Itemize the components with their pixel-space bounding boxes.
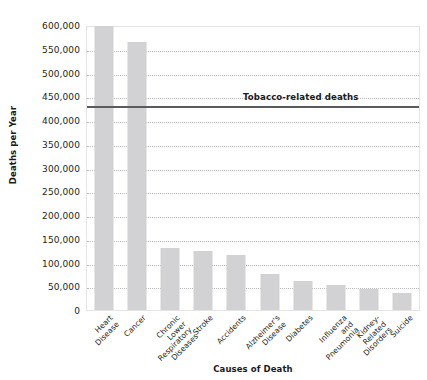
y-tick-label: 400,000 [8, 116, 80, 126]
bar-slot [220, 27, 253, 310]
bar[interactable] [161, 248, 180, 310]
y-tick-label: 50,000 [8, 282, 80, 292]
bar[interactable] [94, 26, 113, 310]
bar[interactable] [127, 42, 146, 310]
y-axis-tick-labels: 600,000550,000500,000450,000400,000350,0… [8, 0, 80, 380]
bar-chart-figure: Deaths per Year 600,000550,000500,000450… [0, 0, 427, 380]
bar-slot [286, 27, 319, 310]
y-tick-label: 200,000 [8, 211, 80, 221]
bar[interactable] [393, 293, 412, 310]
bar-slot [120, 27, 153, 310]
tobacco-threshold-label: Tobacco-related deaths [243, 92, 358, 102]
bar[interactable] [260, 274, 279, 310]
y-tick-label: 500,000 [8, 69, 80, 79]
y-tick-label: 600,000 [8, 21, 80, 31]
y-tick-label: 150,000 [8, 235, 80, 245]
bar-slot [353, 27, 386, 310]
x-tick-label-text: Chronic Lower Respiratory Diseases [144, 314, 200, 370]
x-tick-label-text: Stroke [192, 314, 215, 337]
bar-slot [87, 27, 120, 310]
x-tick-label-text: Suicide [390, 314, 416, 340]
x-tick-label-text: Diabetes [285, 314, 315, 344]
bar-slot [253, 27, 286, 310]
x-tick-label-text: Kidney-Related Disorders [350, 314, 394, 358]
bar-slot [153, 27, 186, 310]
bar-series [87, 27, 419, 310]
x-axis-tick-labels: Heart DiseaseCancerChronic Lower Respira… [86, 311, 420, 371]
bar-slot [386, 27, 419, 310]
x-tick-label-text: Alzheimer's Disease [244, 314, 288, 358]
plot-area: Tobacco-related deaths [86, 26, 420, 311]
y-tick-label: 100,000 [8, 259, 80, 269]
bar[interactable] [360, 289, 379, 310]
x-axis-title: Causes of Death [86, 364, 420, 374]
y-tick-label: 550,000 [8, 45, 80, 55]
bar[interactable] [327, 285, 346, 310]
bar-slot [187, 27, 220, 310]
y-tick-label: 450,000 [8, 92, 80, 102]
x-tick-label-text: Heart Disease [87, 314, 121, 348]
y-tick-label: 0 [8, 306, 80, 316]
bar[interactable] [194, 251, 213, 310]
tobacco-threshold-line [87, 106, 419, 108]
x-tick-label-text: Accidents [216, 314, 248, 346]
y-tick-label: 350,000 [8, 140, 80, 150]
bar[interactable] [227, 255, 246, 310]
bar[interactable] [293, 281, 312, 310]
y-tick-label: 250,000 [8, 187, 80, 197]
y-tick-label: 300,000 [8, 164, 80, 174]
x-tick-label-text: Cancer [123, 314, 148, 339]
bar-slot [319, 27, 352, 310]
